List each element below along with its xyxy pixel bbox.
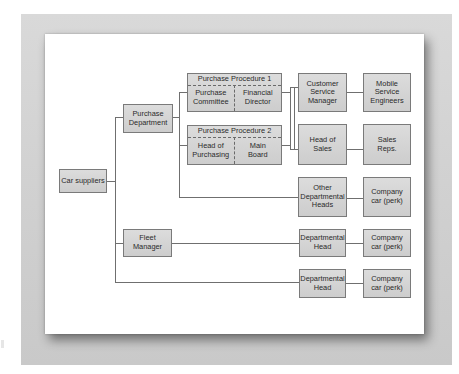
node-head-of-sales: Head of Sales xyxy=(298,124,347,165)
node-fleet-manager: Fleet Manager xyxy=(123,229,172,257)
connector-proc-right-vertical xyxy=(290,87,291,150)
connector-sales-reps xyxy=(347,149,363,150)
connector-to-other-heads xyxy=(179,197,299,198)
node-financial-director: Financial Director xyxy=(235,85,282,111)
connector-other-car xyxy=(347,198,363,199)
node-purchase-procedure-1: Purchase Procedure 1 Purchase Committee … xyxy=(187,73,282,112)
connector-dept2-car xyxy=(346,283,363,284)
connector-trunk-purchase xyxy=(115,117,123,118)
node-company-car-2: Company car (perk) xyxy=(363,229,411,257)
connector-trunk xyxy=(115,117,116,283)
node-company-car-3: Company car (perk) xyxy=(363,269,411,298)
connector-csm-mobile xyxy=(347,92,363,93)
node-customer-service-manager: Customer Service Manager xyxy=(298,73,347,112)
edge-mark xyxy=(1,340,4,348)
connector-roles-vertical xyxy=(294,87,295,150)
node-car-suppliers: Car suppliers xyxy=(59,169,107,193)
connector-to-proc1 xyxy=(179,92,187,93)
node-purchase-committee: Purchase Committee xyxy=(188,85,235,111)
connector-to-proc2 xyxy=(179,145,187,146)
node-company-car-1: Company car (perk) xyxy=(363,177,411,217)
connector-proc2-right xyxy=(282,145,290,146)
node-purchase-department: Purchase Department xyxy=(123,104,173,133)
node-other-departmental-heads: Other Departmental Heads xyxy=(298,177,347,217)
node-main-board: Main Board xyxy=(235,137,282,164)
node-departmental-head-2: Departmental Head xyxy=(299,269,346,298)
connector-proc1-right xyxy=(282,92,290,93)
connector-fleet-depthead xyxy=(172,243,299,244)
node-purchase-procedure-2: Purchase Procedure 2 Head of Purchasing … xyxy=(187,125,282,165)
connector-trunk-fleet xyxy=(115,243,123,244)
node-departmental-head-1: Departmental Head xyxy=(299,229,346,257)
connector-dept1-car xyxy=(346,243,363,244)
connector-trunk-depthead2 xyxy=(115,282,299,283)
node-sales-reps: Sales Reps. xyxy=(363,124,411,165)
node-mobile-service-engineers: Mobile Service Engineers xyxy=(363,73,411,112)
node-head-of-purchasing: Head of Purchasing xyxy=(188,137,235,164)
